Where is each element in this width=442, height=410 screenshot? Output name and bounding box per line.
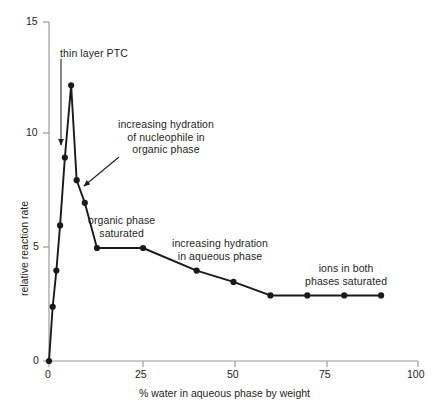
annotation-thin-layer-ptc-line1: thin layer PTC [60, 47, 128, 59]
data-point [341, 292, 347, 298]
data-point [46, 358, 52, 364]
annotation-organic-phase-saturated: organic phasesaturated [88, 214, 155, 239]
annotation-hydration-organic-line2: of nucleophile in [127, 131, 205, 143]
y-axis-title: relative reaction rate [18, 201, 30, 296]
annotation-organic-saturated-line1: organic phase [88, 214, 155, 226]
x-tick-label-50: 50 [227, 368, 239, 380]
reaction-rate-line-chart [0, 0, 442, 410]
increasing-hydration-organic-arrow [84, 157, 119, 186]
x-axis [49, 361, 418, 367]
data-point [82, 200, 88, 206]
y-tick-label-5: 5 [33, 240, 39, 252]
data-point [50, 304, 56, 310]
chart-figure: thin layer PTC increasing hydrationof nu… [0, 0, 442, 410]
data-point [62, 155, 68, 161]
annotation-ions-both-phases-saturated: ions in bothphases saturated [305, 262, 387, 287]
data-point [267, 292, 273, 298]
annotation-increasing-hydration-organic: increasing hydrationof nucleophile inorg… [118, 118, 214, 156]
annotation-increasing-hydration-aqueous: increasing hydrationin aqueous phase [172, 237, 268, 262]
annotation-organic-saturated-line2: saturated [99, 227, 144, 239]
y-tick-label-0: 0 [33, 354, 39, 366]
data-point [230, 279, 236, 285]
data-point [140, 245, 146, 251]
data-point [94, 245, 100, 251]
y-tick-label-10: 10 [26, 126, 38, 138]
data-point [194, 268, 200, 274]
data-point [378, 292, 384, 298]
x-tick-label-75: 75 [319, 368, 331, 380]
annotation-hydration-aqueous-line2: in aqueous phase [178, 250, 263, 262]
x-tick-label-0: 0 [45, 368, 51, 380]
annotation-ions-both-line2: phases saturated [305, 275, 387, 287]
data-point [68, 82, 74, 88]
x-axis-title: % water in aqueous phase by weight [139, 387, 310, 399]
x-tick-label-100: 100 [407, 368, 425, 380]
annotation-hydration-organic-line3: organic phase [132, 143, 199, 155]
x-tick-label-25: 25 [135, 368, 147, 380]
data-point [74, 177, 80, 183]
annotation-thin-layer-ptc: thin layer PTC [60, 47, 128, 60]
data-point [53, 268, 59, 274]
y-axis [43, 22, 49, 361]
annotation-arrows [61, 59, 119, 186]
annotation-hydration-organic-line1: increasing hydration [118, 118, 214, 130]
annotation-hydration-aqueous-line1: increasing hydration [172, 237, 268, 249]
data-point [304, 292, 310, 298]
y-tick-label-15: 15 [26, 15, 38, 27]
annotation-ions-both-line1: ions in both [319, 262, 374, 274]
data-point [57, 222, 63, 228]
